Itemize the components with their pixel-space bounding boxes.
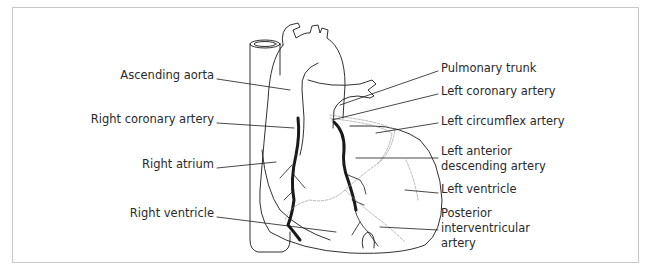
label-line: descending artery [441,159,546,174]
label-line: interventricular [441,221,530,236]
label-right-atrium: Right atrium [142,157,214,172]
left-anterior-descending-vessel [334,122,356,210]
posterior-vessels [285,115,418,242]
label-pulmonary-trunk: Pulmonary trunk [441,61,536,76]
label-line: Posterior [441,206,530,221]
label-posterior-interventricular-artery: Posterior interventricular artery [441,206,530,251]
label-left-anterior-descending-artery: Left anterior descending artery [441,144,546,174]
heart-illustration [0,0,651,274]
label-left-coronary-artery: Left coronary artery [441,84,556,99]
heart-outline [260,23,442,253]
label-ascending-aorta: Ascending aorta [120,68,214,83]
label-right-ventricle: Right ventricle [130,206,214,221]
label-left-circumflex-artery: Left circumflex artery [441,114,565,129]
label-left-ventricle: Left ventricle [441,182,517,197]
label-right-coronary-artery: Right coronary artery [91,112,214,127]
label-line: artery [441,236,530,251]
vena-cava-drawing [250,40,290,252]
label-line: Left anterior [441,144,546,159]
